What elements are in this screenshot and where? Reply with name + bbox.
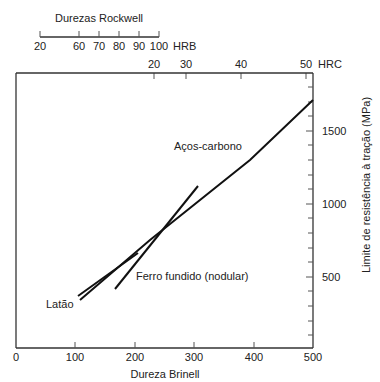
y-axis: 500 1000 1500 Limite de resistência à tr…: [306, 87, 372, 335]
x-tick-label: 0: [13, 351, 19, 363]
hrb-tick-label: 70: [93, 40, 105, 52]
x-tick-label: 500: [304, 351, 322, 363]
y-tick-label: 1000: [322, 198, 346, 210]
x-tick-label: 100: [66, 351, 84, 363]
x-tick-label: 200: [126, 351, 144, 363]
hrb-unit-label: HRB: [173, 40, 196, 52]
chart-canvas: Durezas Rockwell 20 60 70 80 90 100 HRB …: [0, 0, 380, 382]
hrc-tick-label: 40: [235, 58, 247, 70]
hrb-scale: 20 60 70 80 90 100 HRB: [34, 31, 196, 52]
y-tick-label: 500: [322, 271, 340, 283]
hrc-tick-label: 20: [148, 58, 160, 70]
hrb-tick-label: 100: [150, 40, 168, 52]
series-label-nodular-iron: Ferro fundido (nodular): [136, 270, 249, 282]
series-line-brass: [78, 253, 138, 296]
series-label-steel: Aços-carbono: [174, 140, 242, 152]
hrb-tick-label: 60: [73, 40, 85, 52]
hrc-tick-label: 30: [180, 58, 192, 70]
y-axis-label: Limite de resistência à tração (MPa): [360, 97, 372, 273]
hrc-unit-label: HRC: [318, 58, 342, 70]
y-tick-label: 1500: [322, 125, 346, 137]
hrb-tick-label: 90: [133, 40, 145, 52]
x-tick-label: 400: [245, 351, 263, 363]
hrb-tick-label: 80: [113, 40, 125, 52]
chart-title: Durezas Rockwell: [55, 12, 143, 24]
hrb-tick-label: 20: [34, 40, 46, 52]
x-tick-label: 300: [185, 351, 203, 363]
series-label-brass: Latão: [46, 298, 74, 310]
x-axis-label: Dureza Brinell: [130, 368, 199, 380]
hrc-tick-label: 50: [300, 58, 312, 70]
